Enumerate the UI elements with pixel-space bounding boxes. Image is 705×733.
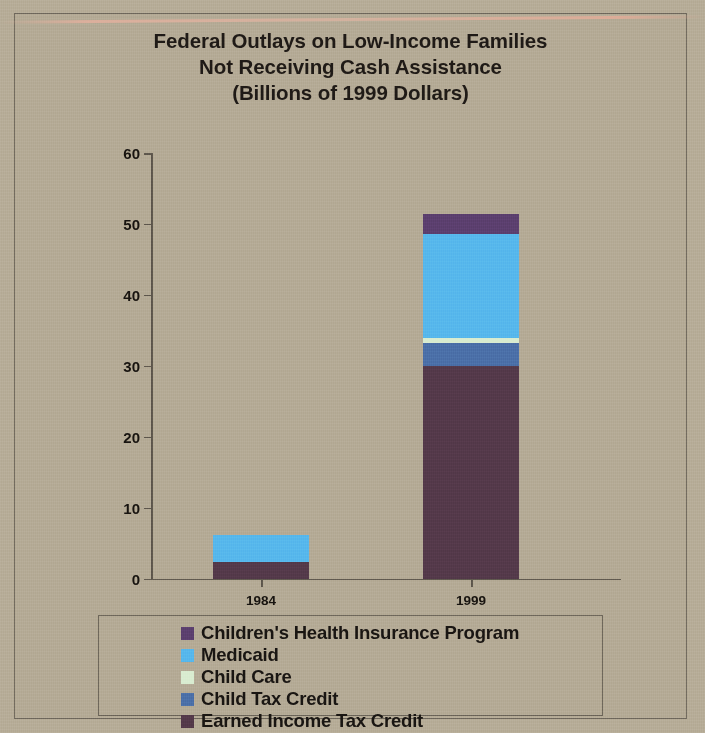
chart-title-line-1: Federal Outlays on Low-Income Families: [15, 28, 686, 54]
y-axis-tick-label: 50: [123, 215, 140, 232]
y-axis-tick: [144, 224, 151, 226]
scanned-page: Federal Outlays on Low-Income Families N…: [0, 0, 705, 733]
legend-swatch: [181, 671, 194, 684]
y-axis-tick: [144, 437, 151, 439]
x-axis-tick: [261, 580, 263, 587]
y-axis-tick-label: 40: [123, 286, 140, 303]
chart-title: Federal Outlays on Low-Income Families N…: [15, 28, 686, 106]
legend-item[interactable]: Child Care: [99, 666, 602, 688]
y-axis-tick: [144, 295, 151, 297]
legend-item[interactable]: Children's Health Insurance Program: [99, 622, 602, 644]
legend-label: Earned Income Tax Credit: [201, 710, 423, 732]
y-axis-tick: [144, 366, 151, 368]
x-axis-label: 1984: [246, 593, 276, 608]
legend-label: Child Tax Credit: [201, 688, 338, 710]
x-axis-line: [151, 579, 621, 581]
y-axis-tick-label: 60: [123, 145, 140, 162]
y-axis-tick-label: 0: [132, 570, 140, 587]
legend-swatch: [181, 627, 194, 640]
y-axis-tick: [144, 153, 151, 155]
y-axis-tick-label: 20: [123, 428, 140, 445]
legend-swatch: [181, 649, 194, 662]
bar-segment[interactable]: [423, 366, 519, 579]
plot-area: 0102030405060 19841999: [151, 153, 621, 580]
bar-segment[interactable]: [423, 343, 519, 366]
bar-segment[interactable]: [213, 535, 309, 562]
legend-label: Child Care: [201, 666, 292, 688]
legend-item[interactable]: Medicaid: [99, 644, 602, 666]
chart-frame: Federal Outlays on Low-Income Families N…: [14, 13, 687, 719]
legend-swatch: [181, 715, 194, 728]
y-axis-tick-label: 30: [123, 357, 140, 374]
x-axis-tick: [471, 580, 473, 587]
stacked-bar[interactable]: [423, 214, 519, 579]
legend-item[interactable]: Child Tax Credit: [99, 688, 602, 710]
chart-legend: Children's Health Insurance ProgramMedic…: [98, 615, 603, 716]
y-axis-tick: [144, 508, 151, 510]
chart-title-line-2: Not Receiving Cash Assistance: [15, 54, 686, 80]
x-axis-label: 1999: [456, 593, 486, 608]
y-axis-tick-label: 10: [123, 499, 140, 516]
legend-label: Medicaid: [201, 644, 279, 666]
bar-segment[interactable]: [423, 214, 519, 234]
legend-item[interactable]: Earned Income Tax Credit: [99, 710, 602, 732]
chart-title-line-3: (Billions of 1999 Dollars): [15, 80, 686, 106]
bar-segment[interactable]: [423, 234, 519, 338]
legend-swatch: [181, 693, 194, 706]
bar-segment[interactable]: [423, 338, 519, 343]
y-axis-tick: [144, 579, 151, 581]
y-axis-line: [151, 153, 153, 580]
stacked-bar[interactable]: [213, 535, 309, 578]
legend-label: Children's Health Insurance Program: [201, 622, 519, 644]
bar-segment[interactable]: [213, 562, 309, 578]
